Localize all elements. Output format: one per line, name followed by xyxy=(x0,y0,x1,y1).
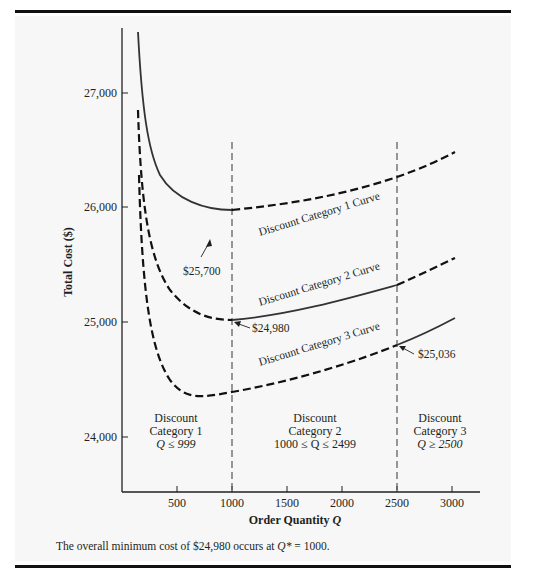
curve-2-label: Discount Category 2 Curve xyxy=(257,260,381,309)
y-axis-title: Total Cost ($) xyxy=(61,227,75,297)
x-ticks: 500 1000 1500 2000 2500 3000 xyxy=(168,486,464,510)
x-axis-title: Order Quantity Q xyxy=(249,513,342,527)
region-category-3: Discount Category 3 Q ≥ 2500 xyxy=(414,411,467,451)
x-tick-label: 2500 xyxy=(385,496,409,510)
svg-text:Q ≤ 999: Q ≤ 999 xyxy=(156,437,195,451)
region-category-1: Discount Category 1 Q ≤ 999 xyxy=(150,411,203,451)
svg-text:Category 3: Category 3 xyxy=(414,424,467,438)
curve-2-dashed-left xyxy=(138,110,232,320)
svg-text:$24,980: $24,980 xyxy=(252,322,290,335)
bottom-rule xyxy=(15,565,511,568)
curve-3-solid xyxy=(397,318,455,345)
x-tick-label: 2000 xyxy=(330,496,354,510)
x-tick-label: 1000 xyxy=(220,496,244,510)
y-tick-label: 27,000 xyxy=(84,86,117,100)
figure-note: The overall minimum cost of $24,980 occu… xyxy=(56,540,330,552)
x-tick-label: 500 xyxy=(168,496,186,510)
chart: 27,000 26,000 25,000 24,000 500 1000 150… xyxy=(0,0,539,572)
curve-1-solid xyxy=(138,32,232,210)
svg-text:Category 2: Category 2 xyxy=(289,424,342,438)
svg-text:Category 1: Category 1 xyxy=(150,424,203,438)
svg-text:$25,036: $25,036 xyxy=(418,348,456,361)
x-tick-label: 3000 xyxy=(440,496,464,510)
annotation-24980: $24,980 xyxy=(234,321,290,335)
svg-text:Discount: Discount xyxy=(293,411,337,425)
y-tick-label: 26,000 xyxy=(84,200,117,214)
svg-text:Discount: Discount xyxy=(418,411,462,425)
svg-text:$25,700: $25,700 xyxy=(183,265,221,278)
annotation-25700: $25,700 xyxy=(183,239,221,278)
y-tick-label: 25,000 xyxy=(84,315,117,329)
x-tick-label: 1500 xyxy=(275,496,299,510)
svg-text:Q ≥ 2500: Q ≥ 2500 xyxy=(417,437,462,451)
svg-text:Discount: Discount xyxy=(154,411,198,425)
annotation-25036: $25,036 xyxy=(399,346,456,361)
svg-text:1000 ≤ Q ≤ 2499: 1000 ≤ Q ≤ 2499 xyxy=(274,437,356,451)
y-tick-label: 24,000 xyxy=(84,430,117,444)
curve-2-dashed-right xyxy=(397,258,455,285)
region-category-2: Discount Category 2 1000 ≤ Q ≤ 2499 xyxy=(274,411,356,451)
